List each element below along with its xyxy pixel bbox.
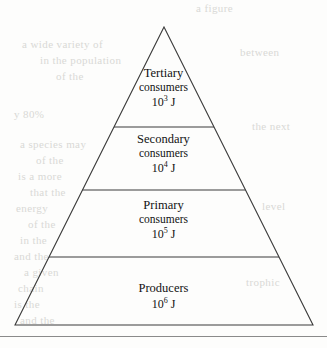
tier-label-secondary-consumers: Secondary consumers 104 J	[0, 132, 327, 175]
tier-name-tertiary: Tertiary	[0, 66, 327, 81]
tier-name-secondary: Secondary	[0, 132, 327, 147]
energy-unit-primary: J	[168, 227, 176, 241]
energy-unit-producers: J	[168, 297, 176, 311]
energy-unit-secondary: J	[168, 161, 176, 175]
tier-energy-primary: 105 J	[0, 227, 327, 241]
energy-base-secondary: 10	[152, 161, 164, 175]
tier-subname-secondary: consumers	[0, 147, 327, 161]
figure-canvas: a figurea wide variety ofin the populati…	[0, 0, 327, 348]
tier-label-tertiary-consumers: Tertiary consumers 103 J	[0, 66, 327, 109]
tier-label-producers: Producers 106 J	[0, 281, 327, 311]
energy-base-primary: 10	[152, 227, 164, 241]
tier-energy-producers: 106 J	[0, 297, 327, 311]
energy-base-producers: 10	[152, 297, 164, 311]
energy-unit-tertiary: J	[168, 95, 176, 109]
tier-subname-tertiary: consumers	[0, 81, 327, 95]
tier-energy-secondary: 104 J	[0, 161, 327, 175]
tier-name-producers: Producers	[0, 281, 327, 296]
tier-energy-tertiary: 103 J	[0, 95, 327, 109]
tier-label-primary-consumers: Primary consumers 105 J	[0, 198, 327, 241]
tier-name-primary: Primary	[0, 198, 327, 213]
tier-subname-primary: consumers	[0, 213, 327, 227]
energy-base-tertiary: 10	[152, 95, 164, 109]
page-horizontal-rule	[0, 336, 327, 337]
